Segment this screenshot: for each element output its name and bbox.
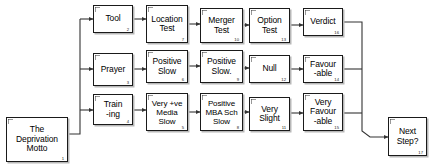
node-number: 7 [182, 37, 184, 42]
corner-fold-icon [202, 10, 207, 15]
corner-fold-icon [390, 119, 395, 124]
node-number: 6 [182, 77, 184, 82]
node-prayer[interactable]: Prayer 3 [93, 53, 133, 86]
flowchart-canvas: The Deprivation Motto 1 Tool 2 Prayer 3 … [0, 0, 433, 166]
node-null[interactable]: Null 12 [249, 55, 290, 83]
node-label: Very Slight [258, 105, 281, 124]
node-positive-mba-sch-slow[interactable]: Positive MBA Sch Slow 8 [200, 93, 243, 131]
node-very-favourable[interactable]: Very Favour -able 15 [303, 93, 343, 131]
edge-group-fanin [343, 22, 388, 137]
corner-fold-icon [251, 57, 256, 62]
node-label: Location Test [150, 15, 183, 34]
node-label: Option Test [256, 16, 282, 35]
node-label: Positive Slow. [206, 57, 237, 76]
node-number: 4 [127, 119, 129, 124]
node-label: Merger Test [207, 16, 235, 35]
corner-fold-icon [305, 10, 310, 15]
edge-group-fanout [68, 19, 93, 134]
node-number: 12 [281, 77, 286, 82]
node-very-slight[interactable]: Very Slight 11 [249, 97, 290, 131]
node-number: 14 [334, 77, 339, 82]
node-very-positive-media-slow[interactable]: Very +ve Media Slow 5 [146, 93, 188, 131]
node-number: 13 [281, 37, 286, 42]
node-label: Tool [104, 14, 121, 24]
node-label: Positive Slow [152, 57, 183, 76]
node-number: 16 [334, 30, 339, 35]
node-next-step[interactable]: Next Step? 17 [388, 117, 427, 156]
node-label: Very Favour -able [309, 98, 337, 127]
node-number: 9 [237, 77, 239, 82]
edge-n16-n17 [343, 22, 388, 137]
corner-fold-icon [251, 99, 256, 104]
node-label: Favour -able [309, 60, 337, 79]
corner-fold-icon [251, 10, 256, 15]
node-number: 17 [418, 150, 423, 155]
node-training[interactable]: Train -ing 4 [93, 94, 133, 125]
corner-fold-icon [8, 119, 13, 124]
node-number: 10 [234, 37, 239, 42]
node-label: Next Step? [396, 127, 420, 146]
node-option-test[interactable]: Option Test 13 [249, 8, 290, 43]
node-number: 2 [127, 27, 129, 32]
corner-fold-icon [95, 96, 100, 101]
node-label: The Deprivation Motto [15, 125, 59, 154]
node-tool[interactable]: Tool 2 [93, 5, 133, 33]
node-label: Very +ve Media Slow [151, 99, 184, 126]
node-number: 5 [182, 125, 184, 130]
node-location-test[interactable]: Location Test 7 [146, 5, 188, 43]
edge-trunk-left [68, 19, 80, 134]
node-label: Verdict [309, 17, 336, 27]
node-label: Train -ing [103, 100, 124, 119]
node-number: 11 [282, 125, 286, 130]
node-the-deprivation-motto[interactable]: The Deprivation Motto 1 [6, 117, 68, 162]
node-verdict[interactable]: Verdict 16 [303, 8, 343, 36]
node-label: Positive MBA Sch Slow [204, 99, 238, 126]
node-number: 1 [62, 156, 64, 161]
node-number: 8 [237, 125, 239, 130]
corner-fold-icon [148, 7, 153, 12]
node-positive-slow[interactable]: Positive Slow 6 [146, 50, 188, 83]
node-positive-slow-2[interactable]: Positive Slow. 9 [200, 50, 243, 83]
node-label: Null [261, 64, 277, 74]
node-favourable[interactable]: Favour -able 14 [303, 55, 343, 83]
node-number: 15 [334, 125, 339, 130]
corner-fold-icon [95, 7, 100, 12]
node-number: 3 [127, 80, 129, 85]
node-merger-test[interactable]: Merger Test 10 [200, 8, 243, 43]
corner-fold-icon [95, 55, 100, 60]
node-label: Prayer [100, 65, 126, 75]
